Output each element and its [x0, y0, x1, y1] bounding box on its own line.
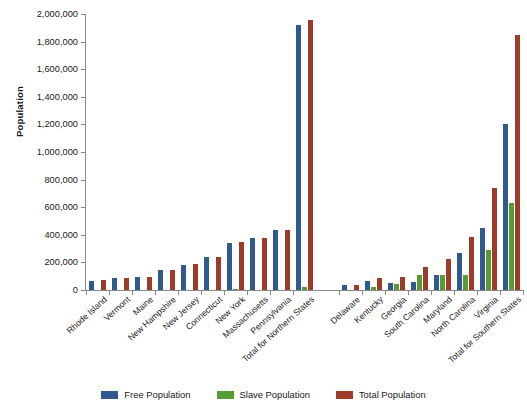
x-axis-tick: [270, 290, 271, 295]
bar-slave: [417, 275, 422, 290]
bar-total: [170, 270, 175, 290]
bar-slave: [371, 287, 376, 290]
x-axis-tick: [477, 290, 478, 295]
x-axis-tick: [408, 290, 409, 295]
x-axis-tick: [178, 290, 179, 295]
x-axis-tick: [201, 290, 202, 295]
y-axis-tick-label: 800,000: [44, 175, 78, 185]
bar-total: [124, 278, 129, 290]
bar-group: [112, 14, 129, 290]
bar-total: [423, 267, 428, 290]
y-axis-tick-label: 1,000,000: [37, 147, 78, 157]
bar-slave: [302, 287, 307, 290]
chart-legend: Free PopulationSlave PopulationTotal Pop…: [0, 389, 527, 400]
bar-total: [147, 277, 152, 290]
x-axis-tick: [132, 290, 133, 295]
y-axis-tick-label: 600,000: [44, 202, 78, 212]
legend-label: Total Population: [359, 389, 426, 400]
population-bar-chart: Population 0200,000400,000600,000800,000…: [0, 0, 527, 413]
bar-group: [158, 14, 175, 290]
y-axis-tick-label: 1,200,000: [37, 119, 78, 129]
plot-area: 0200,000400,000600,000800,0001,000,0001,…: [85, 14, 523, 291]
bar-group: [181, 14, 198, 290]
x-axis-tick: [224, 290, 225, 295]
y-axis-tick: [81, 235, 86, 236]
legend-swatch-total-icon: [336, 391, 353, 399]
bar-slave: [486, 250, 491, 290]
bar-free: [342, 285, 347, 290]
y-axis-tick-label: 400,000: [44, 230, 78, 240]
bar-free: [89, 281, 94, 290]
y-axis-tick: [81, 42, 86, 43]
x-axis-tick: [86, 290, 87, 295]
x-axis-tick: [523, 290, 524, 295]
bar-total: [239, 242, 244, 290]
bar-group: [89, 14, 106, 290]
x-axis-tick: [454, 290, 455, 295]
bar-group: [503, 14, 520, 290]
bar-group: [434, 14, 451, 290]
bar-free: [273, 230, 278, 290]
bar-free: [457, 253, 462, 290]
bar-total: [515, 35, 520, 290]
bar-total: [308, 20, 313, 290]
bar-free: [480, 228, 485, 290]
bar-total: [469, 237, 474, 290]
bar-group: [411, 14, 428, 290]
y-axis-tick-label: 0: [73, 285, 78, 295]
bar-free: [296, 25, 301, 290]
y-axis-tick: [81, 262, 86, 263]
bar-total: [285, 230, 290, 290]
bar-group: [296, 14, 313, 290]
x-axis-tick: [293, 290, 294, 295]
bar-slave: [463, 275, 468, 290]
bar-free: [181, 265, 186, 290]
bar-total: [216, 257, 221, 290]
bar-group: [388, 14, 405, 290]
legend-item: Free Population: [101, 389, 190, 400]
bar-free: [227, 243, 232, 290]
bar-total: [354, 285, 359, 290]
bar-group: [342, 14, 359, 290]
bar-free: [204, 257, 209, 290]
x-axis-tick: [385, 290, 386, 295]
bar-total: [377, 278, 382, 290]
bar-free: [434, 275, 439, 290]
bar-free: [250, 238, 255, 290]
bar-group: [227, 14, 244, 290]
bar-slave: [233, 289, 238, 290]
y-axis-tick: [81, 97, 86, 98]
legend-swatch-free-icon: [101, 391, 118, 399]
y-axis-tick: [81, 180, 86, 181]
legend-label: Free Population: [124, 389, 190, 400]
bar-group: [135, 14, 152, 290]
y-axis-tick: [81, 207, 86, 208]
x-axis-tick: [109, 290, 110, 295]
legend-item: Slave Population: [217, 389, 310, 400]
bar-group: [457, 14, 474, 290]
legend-swatch-slave-icon: [217, 391, 234, 399]
x-axis-tick: [500, 290, 501, 295]
y-axis-tick-label: 2,000,000: [37, 9, 78, 19]
bar-group: [273, 14, 290, 290]
bar-slave: [440, 275, 445, 290]
bar-group: [480, 14, 497, 290]
legend-item: Total Population: [336, 389, 426, 400]
bar-free: [388, 283, 393, 290]
bar-free: [365, 281, 370, 290]
bar-total: [400, 277, 405, 290]
y-axis-tick: [81, 152, 86, 153]
y-axis-tick-label: 200,000: [44, 257, 78, 267]
bar-total: [492, 188, 497, 290]
x-axis-tick: [339, 290, 340, 295]
bar-free: [158, 270, 163, 290]
x-axis-tick: [247, 290, 248, 295]
bar-free: [503, 124, 508, 290]
y-axis-tick-label: 1,800,000: [37, 37, 78, 47]
bar-total: [262, 238, 267, 290]
x-axis-tick: [362, 290, 363, 295]
x-axis-tick: [431, 290, 432, 295]
bar-slave: [509, 203, 514, 290]
bar-free: [112, 278, 117, 290]
y-axis-tick: [81, 69, 86, 70]
